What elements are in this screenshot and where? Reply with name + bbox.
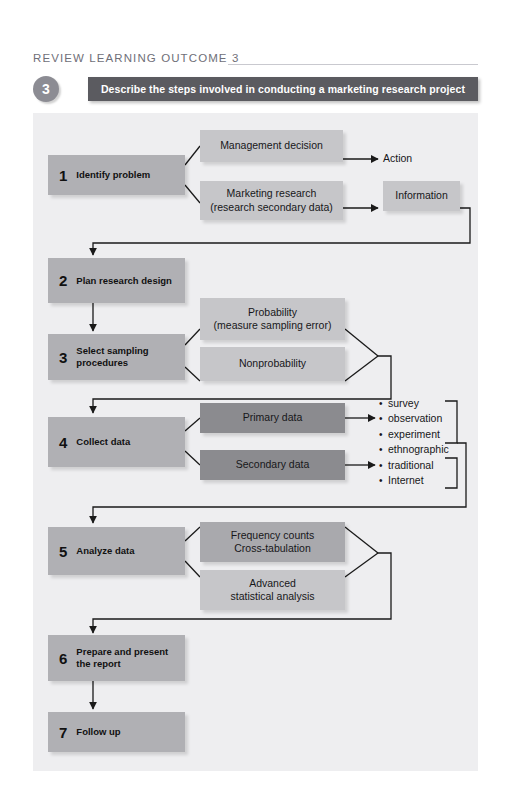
box-label: Frequency counts Cross-tabulation: [231, 529, 314, 556]
box-probability: Probability (measure sampling error): [200, 298, 345, 340]
step-box-6: 6 Prepare and present the report: [48, 635, 185, 681]
box-frequency-counts: Frequency counts Cross-tabulation: [200, 522, 345, 562]
box-management-decision: Management decision: [200, 130, 343, 162]
objective-banner: Describe the steps involved in conductin…: [88, 77, 478, 101]
review-learning-outcome-header: Review Learning Outcome 3: [33, 52, 478, 70]
box-label: Advanced statistical analysis: [230, 577, 314, 604]
list-item: observation: [379, 411, 449, 426]
header-divider: [228, 64, 478, 65]
step-number: 4: [59, 435, 67, 450]
step-number: 7: [59, 725, 67, 740]
step-box-2: 2 Plan research design: [48, 258, 185, 303]
step-label: Follow up: [76, 726, 120, 738]
secondary-data-methods-list: traditional Internet: [379, 458, 434, 489]
step-label: Analyze data: [76, 545, 134, 557]
box-information: Information: [383, 181, 460, 211]
list-item: ethnographic: [379, 442, 449, 457]
step-number: 5: [59, 544, 67, 559]
step-box-1: 1 Identify problem: [48, 155, 185, 195]
step-label: Collect data: [76, 436, 130, 448]
box-marketing-research: Marketing research (research secondary d…: [200, 181, 343, 220]
box-nonprobability: Nonprobability: [200, 347, 345, 381]
box-secondary-data: Secondary data: [200, 450, 345, 480]
box-label: Probability (measure sampling error): [214, 306, 332, 333]
marketing-research-flowchart: 1 Identify problem Management decision A…: [33, 113, 478, 771]
step-box-7: 7 Follow up: [48, 712, 185, 752]
step-box-4: 4 Collect data: [48, 417, 185, 467]
list-item: experiment: [379, 427, 449, 442]
step-number: 3: [59, 350, 67, 365]
box-primary-data: Primary data: [200, 403, 345, 433]
step-label: Prepare and present the report: [76, 646, 168, 670]
box-label: Information: [395, 189, 448, 202]
step-label: Plan research design: [76, 275, 172, 287]
step-box-5: 5 Analyze data: [48, 527, 185, 575]
box-label: Management decision: [220, 139, 323, 152]
step-number: 1: [59, 168, 67, 183]
box-label: Secondary data: [236, 458, 310, 471]
step-label: Select sampling procedures: [76, 345, 148, 369]
learning-objective-row: 3 Describe the steps involved in conduct…: [33, 76, 478, 102]
step-number: 2: [59, 273, 67, 288]
box-advanced-statistical-analysis: Advanced statistical analysis: [200, 570, 345, 610]
box-label: Nonprobability: [239, 357, 306, 370]
list-item: traditional: [379, 458, 434, 473]
objective-text: Describe the steps involved in conductin…: [101, 83, 465, 95]
step-box-3: 3 Select sampling procedures: [48, 334, 185, 380]
primary-data-methods-list: survey observation experiment ethnograph…: [379, 396, 449, 458]
list-item: survey: [379, 396, 449, 411]
objective-number-badge: 3: [33, 76, 59, 102]
step-number: 6: [59, 651, 67, 666]
page-title: Review Learning Outcome 3: [33, 52, 239, 64]
list-item: Internet: [379, 473, 434, 488]
box-label: Marketing research (research secondary d…: [210, 187, 333, 214]
box-label: Primary data: [243, 411, 303, 424]
step-label: Identify problem: [76, 169, 150, 181]
label-action: Action: [383, 152, 412, 164]
